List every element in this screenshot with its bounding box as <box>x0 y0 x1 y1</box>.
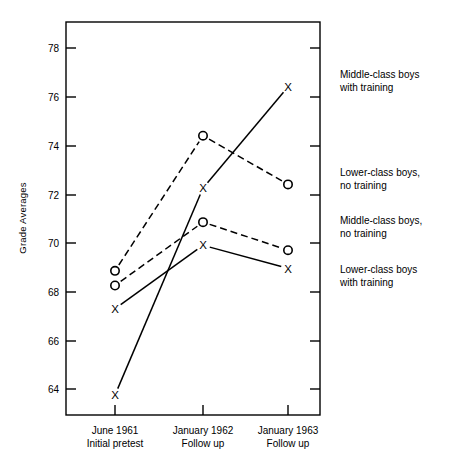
legend-2-line2: no training <box>340 228 387 239</box>
x-label-1963-line1: January 1963 <box>258 425 319 436</box>
series-3-marker-x-0: X <box>111 303 119 315</box>
series-2-marker-circle-0 <box>111 281 119 289</box>
line-chart-svg: 78 76 74 72 70 68 66 64 Grade Averages J… <box>0 0 453 468</box>
x-label-1962-line2: Follow up <box>182 438 225 449</box>
y-tick-label-76: 76 <box>48 92 60 103</box>
plot-frame <box>66 22 320 415</box>
series-1-marker-circle-1 <box>199 131 207 139</box>
series-0-marker-x-2: X <box>284 81 292 93</box>
legend-1-line2: no training <box>340 180 387 191</box>
series-0-marker-x-1: X <box>199 182 207 194</box>
x-label-1963-line2: Follow up <box>267 438 310 449</box>
legend-annotations: Middle-class boys with training Lower-cl… <box>339 69 422 288</box>
legend-0-line1: Middle-class boys <box>340 69 419 80</box>
legend-3-line2: with training <box>339 277 393 288</box>
y-tick-label-64: 64 <box>48 384 60 395</box>
x-category-labels: June 1961 Initial pretest January 1962 F… <box>87 425 319 449</box>
y-tick-label-78: 78 <box>48 43 60 54</box>
legend-2-line1: Middle-class boys, <box>340 215 422 226</box>
legend-3-line1: Lower-class boys <box>340 264 417 275</box>
series-1-marker-circle-2 <box>284 180 292 188</box>
x-label-1961-line2: Initial pretest <box>87 438 144 449</box>
series-3-marker-x-2: X <box>284 263 292 275</box>
y-tick-label-74: 74 <box>48 141 60 152</box>
y-axis-title: Grade Averages <box>17 182 28 253</box>
series-2-marker-circle-1 <box>199 218 207 226</box>
y-tick-label-72: 72 <box>48 190 60 201</box>
x-label-1961-line1: June 1961 <box>92 425 139 436</box>
y-tick-label-70: 70 <box>48 238 60 249</box>
legend-0-line2: with training <box>339 82 393 93</box>
y-tick-label-66: 66 <box>48 336 60 347</box>
y-tick-label-68: 68 <box>48 287 60 298</box>
series-0-marker-x-0: X <box>111 389 119 401</box>
series-3-marker-x-1: X <box>199 239 207 251</box>
chart-figure: 78 76 74 72 70 68 66 64 Grade Averages J… <box>0 0 453 468</box>
series-2-marker-circle-2 <box>284 246 292 254</box>
y-tick-labels: 78 76 74 72 70 68 66 64 <box>48 43 60 395</box>
x-label-1962-line1: January 1962 <box>173 425 234 436</box>
legend-1-line1: Lower-class boys, <box>340 167 420 178</box>
series-1-marker-circle-0 <box>111 267 119 275</box>
